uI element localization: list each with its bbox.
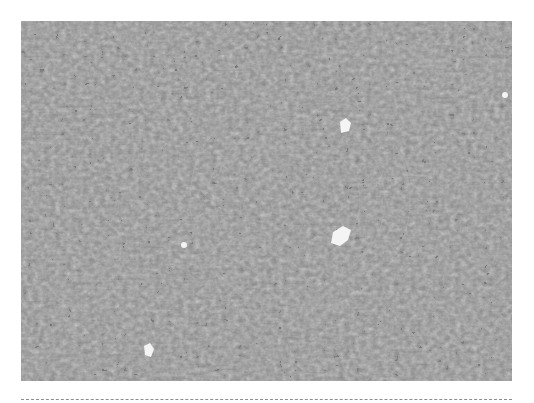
histology-micrograph <box>21 21 512 381</box>
tissue-texture <box>21 21 512 381</box>
dashed-divider <box>21 399 512 400</box>
